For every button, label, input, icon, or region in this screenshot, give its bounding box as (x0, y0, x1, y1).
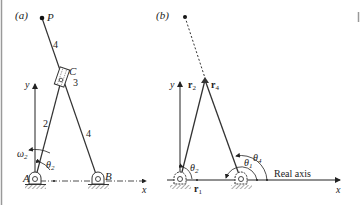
theta1-label: θ1 (244, 157, 252, 170)
dashed-extension (185, 17, 205, 78)
link-4-lower-label: 4 (86, 128, 91, 139)
r2-label: r2 (188, 79, 196, 92)
omega-label: ω2 (17, 148, 28, 161)
panel-a-label: (a) (15, 9, 28, 22)
r4-label: r4 (211, 79, 219, 92)
r1-tick (196, 179, 198, 181)
y-axis-label-b: y (169, 79, 175, 90)
theta4-label: θ4 (253, 152, 262, 165)
link-4 (42, 18, 98, 180)
omega-arrow (29, 149, 50, 153)
pin-c (59, 78, 63, 82)
vector-r4 (205, 80, 241, 180)
pivot-b-label: B (105, 170, 112, 182)
real-axis-label: Real axis (274, 168, 311, 179)
theta2-label-b: θ2 (190, 162, 199, 175)
pivot-a-label: A (22, 172, 30, 184)
panel-b: (b) y x r2 r4 r1 θ2 θ1 θ4 Real axis (156, 9, 341, 196)
point-p-label: P (46, 11, 54, 23)
panel-b-label: (b) (156, 9, 169, 22)
theta2-label-a: θ2 (46, 159, 55, 172)
r1-label: r1 (194, 183, 202, 196)
link-4-upper-label: 4 (53, 39, 58, 50)
slider-c-label: C (69, 65, 77, 77)
x-axis-label-b: x (335, 184, 341, 195)
x-axis-tick-a (53, 180, 55, 182)
x-axis-label-a: x (141, 184, 147, 195)
y-axis-label-a: y (24, 79, 30, 90)
panel-a: (a) y x P 4 C 3 2 4 ω2 θ2 (15, 9, 147, 195)
mechanism-diagram: (a) y x P 4 C 3 2 4 ω2 θ2 (0, 0, 360, 205)
slider-c (54, 67, 69, 87)
point-p (40, 16, 45, 21)
slider-number-label: 3 (73, 77, 78, 88)
link-2-label: 2 (43, 118, 48, 129)
apex-arrowhead (201, 77, 209, 83)
